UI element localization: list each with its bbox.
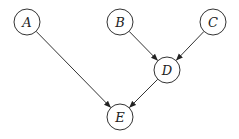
edge-d-to-e — [129, 79, 158, 108]
edge-c-to-d — [176, 31, 204, 60]
node-label: A — [21, 15, 31, 30]
node-b: B — [107, 9, 133, 35]
node-label: D — [161, 63, 173, 78]
node-label: B — [114, 15, 125, 30]
node-label: E — [114, 110, 125, 125]
node-label: C — [208, 15, 218, 30]
node-e: E — [107, 104, 133, 130]
node-a: A — [14, 9, 40, 35]
dag-diagram: ABCDE — [0, 0, 239, 139]
node-c: C — [200, 9, 226, 35]
node-d: D — [154, 57, 180, 83]
edge-a-to-e — [36, 31, 111, 107]
edge-b-to-d — [129, 31, 158, 60]
